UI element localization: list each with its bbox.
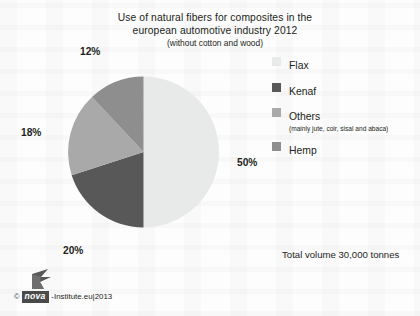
legend-label-kenaf: Kenaf (289, 86, 316, 97)
total-volume-note: Total volume 30,000 tonnes (282, 249, 399, 260)
legend-item-kenaf: Kenaf (272, 81, 420, 99)
legend-item-others: Others (mainly jute, coir, sisal and aba… (272, 106, 420, 132)
legend-swatch-flax (272, 57, 281, 66)
chart-title-line-1: Use of natural fibers for composites in … (60, 11, 370, 24)
chart-title-block: Use of natural fibers for composites in … (60, 11, 370, 49)
slice-label-others: 18% (21, 127, 41, 138)
source-credit: © nova -Institute.eu|2013 (14, 268, 164, 308)
pie-graphic (68, 63, 219, 241)
legend-label-others: Others (289, 111, 320, 122)
legend-swatch-kenaf (272, 83, 281, 92)
legend-item-hemp: Hemp (272, 140, 420, 158)
copyright-icon: © (14, 292, 20, 301)
legend-swatch-others (272, 108, 281, 117)
credit-line: © nova -Institute.eu|2013 (14, 291, 112, 303)
pie-chart-figure: Use of natural fibers for composites in … (0, 0, 420, 316)
legend-label-hemp: Hemp (289, 145, 317, 156)
slice-label-flax: 50% (237, 157, 257, 168)
slice-label-hemp: 12% (80, 46, 100, 57)
credit-text: -Institute.eu|2013 (51, 292, 112, 301)
legend-label-flax: Flax (289, 60, 309, 71)
nova-wordmark: nova (22, 291, 50, 303)
nova-logo-icon (30, 268, 56, 290)
legend-swatch-hemp (272, 142, 281, 151)
slice-label-kenaf: 20% (63, 245, 83, 256)
legend-item-flax: Flax (272, 55, 420, 73)
chart-legend: Flax Kenaf Others (mainly jute, coir, si… (272, 55, 420, 166)
chart-subtitle: (without cotton and wood) (60, 38, 370, 49)
legend-note-others: (mainly jute, coir, sisal and abaca) (289, 125, 388, 132)
chart-title-line-2: european automotive industry 2012 (60, 24, 370, 37)
pie-slice-flax (144, 77, 220, 228)
